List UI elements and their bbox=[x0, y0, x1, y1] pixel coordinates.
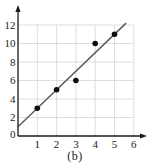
y-tick-label: 6 bbox=[10, 74, 16, 86]
data-point bbox=[112, 31, 118, 37]
y-tick-label: 2 bbox=[10, 111, 16, 123]
y-tick-label: 8 bbox=[10, 56, 16, 68]
data-point bbox=[54, 87, 60, 93]
y-tick-label: 10 bbox=[5, 37, 17, 49]
data-point bbox=[92, 41, 98, 47]
chart-svg: 123456024681012 bbox=[0, 0, 150, 150]
x-tick-label: 3 bbox=[73, 138, 79, 150]
y-tick-label: 12 bbox=[5, 19, 16, 31]
x-tick-label: 6 bbox=[131, 138, 137, 150]
y-tick-label: 4 bbox=[10, 93, 16, 105]
x-tick-label: 2 bbox=[54, 138, 60, 150]
x-tick-label: 5 bbox=[112, 138, 118, 150]
x-axis-arrow-icon bbox=[140, 133, 147, 138]
data-point bbox=[73, 78, 79, 84]
x-tick-label: 1 bbox=[35, 138, 41, 150]
fit-line bbox=[18, 23, 126, 127]
data-point bbox=[35, 105, 41, 111]
y-axis-arrow-icon bbox=[15, 5, 20, 12]
figure-caption: (b) bbox=[0, 149, 150, 164]
y-tick-label: 0 bbox=[10, 128, 16, 140]
x-tick-label: 4 bbox=[92, 138, 98, 150]
figure-panel: 123456024681012 (b) bbox=[0, 0, 150, 168]
